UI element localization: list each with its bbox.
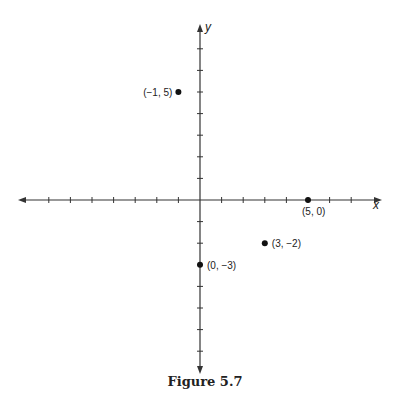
axes [18,24,382,374]
x-axis-label: x [372,198,380,212]
data-points: (−1, 5)(5, 0)(3, −2)(0, −3) [143,87,325,271]
data-point [305,197,311,203]
data-point [262,240,268,246]
data-point [175,89,181,95]
y-axis-up-arrow-icon [197,24,203,32]
data-point [197,262,203,268]
point-label: (0, −3) [207,260,236,271]
x-axis-left-arrow-icon [18,197,26,203]
point-label: (3, −2) [272,238,301,249]
point-label: (5, 0) [302,206,325,217]
y-axis-down-arrow-icon [197,366,203,374]
coordinate-plane: (−1, 5)(5, 0)(3, −2)(0, −3) x y [0,0,397,403]
y-axis-label: y [204,20,212,34]
figure-caption: Figure 5.7 [0,374,397,389]
point-label: (−1, 5) [143,87,172,98]
